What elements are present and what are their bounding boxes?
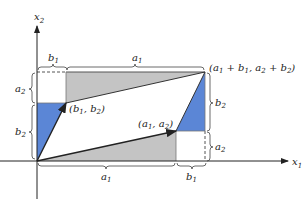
point-b-label: (b1, b2) [69, 103, 105, 116]
label-right-a2: a2 [215, 141, 226, 154]
label-left-a2: a2 [15, 83, 26, 96]
label-right-b2: b2 [215, 97, 226, 110]
label-bottom-b1: b1 [186, 171, 197, 184]
brace-top-b1 [38, 64, 67, 70]
label-bottom-a1: a1 [101, 171, 111, 184]
brace-left-b2 [29, 105, 35, 159]
brace-right-b2 [207, 73, 213, 131]
point-sum-label: (a1 + b1, a2 + b2) [209, 62, 295, 75]
point-a-label: (a1, a2) [138, 118, 173, 131]
brace-left-a2 [29, 73, 35, 103]
y-axis-label: x2 [34, 11, 45, 25]
label-top-a1: a1 [132, 52, 142, 65]
label-top-b1: b1 [48, 52, 59, 65]
brace-bottom-a1 [38, 163, 175, 169]
brace-right-a2 [207, 132, 213, 161]
parallelogram-area-diagram: x2 x1 (b1, b2) (a1, a2) (a1 + b1, a2 + b… [0, 0, 303, 199]
brace-top-a1 [67, 64, 204, 70]
x-axis-label: x1 [292, 156, 302, 170]
brace-bottom-b1 [177, 163, 206, 169]
label-left-b2: b2 [15, 126, 26, 139]
